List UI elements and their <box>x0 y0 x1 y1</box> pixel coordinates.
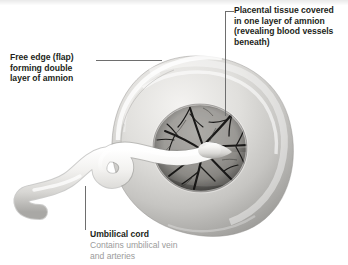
leader-line-placental-tissue-horizontal <box>225 11 234 12</box>
label-placental-tissue: Placental tissue covered in one layer of… <box>234 5 334 47</box>
leader-line-umbilical-cord <box>85 186 86 230</box>
label-umbilical-cord-description: Contains umbilical vein and arteries <box>90 240 177 261</box>
figure-canvas: Placental tissue covered in one layer of… <box>0 0 348 265</box>
leader-line-free-edge <box>96 60 162 61</box>
leader-line-placental-tissue-vertical <box>225 11 226 116</box>
label-umbilical-cord-title: Umbilical cord <box>90 229 149 240</box>
label-free-edge: Free edge (flap) forming double layer of… <box>10 52 74 84</box>
